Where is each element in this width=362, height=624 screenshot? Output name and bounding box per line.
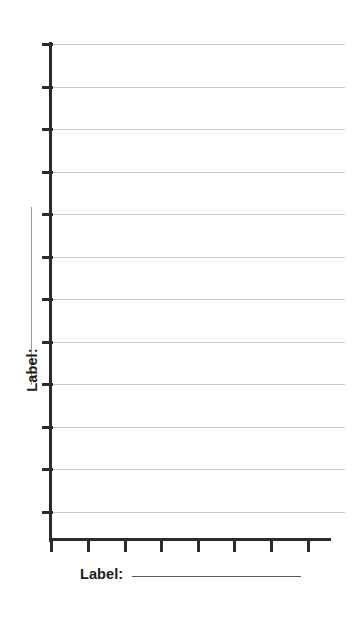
y-axis-label-group[interactable]: Label:: [18, 205, 44, 440]
y-axis-tick: [42, 511, 53, 514]
x-axis-tick: [307, 538, 310, 552]
y-axis-tick: [42, 468, 53, 471]
gridline: [51, 427, 345, 428]
gridline: [51, 299, 345, 300]
x-axis-line: [49, 538, 331, 541]
x-axis-tick: [87, 538, 90, 552]
x-axis-label-group[interactable]: Label:: [80, 566, 310, 590]
gridline: [51, 384, 345, 385]
gridline: [51, 172, 345, 173]
x-axis-blank-write-in-line[interactable]: [132, 576, 301, 577]
y-axis-tick: [42, 43, 53, 46]
x-axis-tick: [160, 538, 163, 552]
graph-worksheet: Label: Label:: [0, 0, 362, 624]
y-axis-label: Label:: [22, 343, 42, 397]
gridline: [51, 512, 345, 513]
gridline: [51, 129, 345, 130]
x-axis-tick: [124, 538, 127, 552]
gridline: [51, 44, 345, 45]
gridline: [51, 87, 345, 88]
y-axis-line: [49, 42, 52, 542]
x-axis-tick: [197, 538, 200, 552]
x-axis-tick: [233, 538, 236, 552]
gridline: [51, 257, 345, 258]
y-axis-tick: [42, 171, 53, 174]
gridline: [51, 342, 345, 343]
y-axis-tick: [42, 86, 53, 89]
x-axis-label: Label:: [80, 566, 123, 582]
gridline: [51, 214, 345, 215]
y-axis-tick: [42, 128, 53, 131]
gridline: [51, 469, 345, 470]
x-axis-tick: [270, 538, 273, 552]
x-axis-tick: [50, 538, 53, 552]
plot-area: [51, 44, 345, 540]
